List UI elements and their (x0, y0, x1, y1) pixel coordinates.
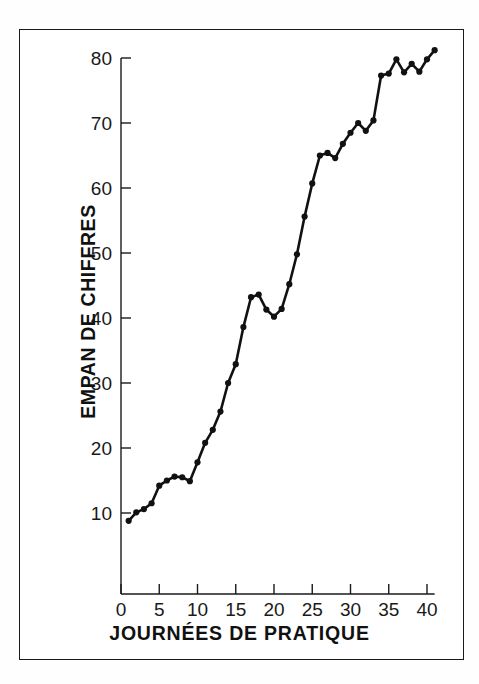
x-tick-label: 30 (340, 599, 361, 620)
data-point (256, 292, 262, 298)
data-point (324, 150, 330, 156)
data-point (317, 152, 323, 158)
data-point (393, 56, 399, 62)
data-point (302, 214, 308, 220)
data-point (424, 56, 430, 62)
x-axis-title: JOURNÉES DE PRATIQUE (0, 622, 479, 645)
x-tick-label: 20 (263, 599, 284, 620)
data-point (347, 130, 353, 136)
y-tick-label: 70 (91, 113, 112, 134)
data-point (286, 281, 292, 287)
data-point (271, 314, 277, 320)
axes-group (121, 58, 435, 594)
y-axis-title: EMPAN DE CHIFFRES (77, 162, 100, 462)
data-point (363, 128, 369, 134)
y-tick-label: 10 (91, 503, 112, 524)
data-point (355, 120, 361, 126)
data-point (187, 478, 193, 484)
x-tick-label: 5 (154, 599, 165, 620)
figure-page: 10203040506070800510152025303540 EMPAN D… (0, 0, 479, 684)
x-tick-label: 0 (116, 599, 127, 620)
data-point (240, 324, 246, 330)
data-point (225, 380, 231, 386)
data-point (409, 61, 415, 67)
data-point (194, 459, 200, 465)
x-tick-label: 25 (302, 599, 323, 620)
data-point (401, 69, 407, 75)
data-line (129, 50, 435, 521)
data-point (294, 251, 300, 257)
data-point (416, 69, 422, 75)
x-tick-label: 15 (225, 599, 246, 620)
data-point (141, 506, 147, 512)
data-point (432, 47, 438, 53)
data-point (378, 72, 384, 78)
data-point (149, 500, 155, 506)
x-tick-label: 40 (416, 599, 437, 620)
data-point (171, 474, 177, 480)
data-point (332, 155, 338, 161)
data-point (279, 306, 285, 312)
data-point-markers (126, 47, 438, 524)
line-chart: 10203040506070800510152025303540 (0, 0, 479, 684)
data-point (309, 180, 315, 186)
data-point (233, 361, 239, 367)
y-tick-label: 80 (91, 48, 112, 69)
data-point (164, 477, 170, 483)
data-point (126, 518, 132, 524)
data-point (386, 71, 392, 77)
x-tick-label: 35 (378, 599, 399, 620)
tick-marks (121, 58, 427, 594)
data-point (340, 141, 346, 147)
data-point (156, 483, 162, 489)
data-point (179, 474, 185, 480)
data-point (202, 440, 208, 446)
data-point (248, 294, 254, 300)
data-point (217, 409, 223, 415)
tick-labels: 10203040506070800510152025303540 (91, 48, 438, 620)
data-point (263, 306, 269, 312)
x-tick-label: 10 (187, 599, 208, 620)
data-point (210, 427, 216, 433)
data-point (133, 509, 139, 515)
data-point (370, 117, 376, 123)
